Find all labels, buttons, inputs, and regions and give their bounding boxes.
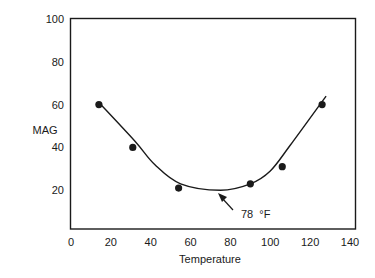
y-axis-ticks: 20406080100 bbox=[46, 13, 64, 196]
temperature-mag-chart: 20406080100 020406080100120140 MAG Tempe… bbox=[0, 0, 375, 278]
x-tick-label: 40 bbox=[145, 236, 157, 248]
plot-frame bbox=[71, 19, 356, 230]
y-tick-label: 60 bbox=[52, 99, 64, 111]
y-tick-label: 80 bbox=[52, 56, 64, 68]
x-axis-label: Temperature bbox=[179, 253, 241, 265]
x-axis-ticks: 020406080100120140 bbox=[68, 236, 359, 248]
data-point-marker bbox=[319, 101, 326, 108]
x-tick-label: 120 bbox=[301, 236, 319, 248]
annotation-unit: °F bbox=[259, 208, 270, 220]
y-tick-label: 40 bbox=[52, 141, 64, 153]
annotation-value: 78 bbox=[241, 208, 253, 220]
data-point-marker bbox=[95, 101, 102, 108]
data-point-marker bbox=[175, 184, 182, 191]
annotation-text: 78 °F bbox=[241, 208, 271, 220]
fitted-curve-line bbox=[99, 96, 326, 190]
data-point-marker bbox=[247, 180, 254, 187]
minimum-annotation: 78 °F bbox=[218, 193, 271, 220]
data-point-marker bbox=[279, 163, 286, 170]
x-tick-label: 80 bbox=[224, 236, 236, 248]
x-tick-label: 0 bbox=[68, 236, 74, 248]
x-tick-label: 140 bbox=[341, 236, 359, 248]
y-tick-label: 20 bbox=[52, 184, 64, 196]
x-tick-label: 20 bbox=[105, 236, 117, 248]
x-tick-label: 60 bbox=[184, 236, 196, 248]
data-point-marker bbox=[129, 144, 136, 151]
y-tick-label: 100 bbox=[46, 13, 64, 25]
x-tick-label: 100 bbox=[261, 236, 279, 248]
arrow-head-icon bbox=[218, 193, 227, 202]
data-points bbox=[95, 101, 325, 192]
y-axis-label: MAG bbox=[32, 124, 57, 136]
